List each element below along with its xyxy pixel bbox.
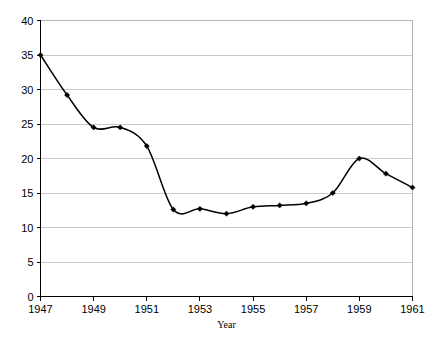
data-point-1953: [197, 206, 202, 211]
data-point-1950: [118, 125, 123, 130]
x-tick-label-1955: 1955: [241, 303, 265, 315]
y-tick-label-40: 40: [21, 15, 33, 27]
x-axis-title: Year: [217, 319, 236, 330]
y-tick-label-20: 20: [21, 153, 33, 165]
y-tick-label-30: 30: [21, 84, 33, 96]
data-point-1961: [410, 185, 415, 190]
x-tick-label-1951: 1951: [135, 303, 159, 315]
line-chart: 0510152025303540194719491951195319551957…: [0, 0, 433, 346]
series-line-path: [41, 55, 413, 214]
x-tick-label-1957: 1957: [294, 303, 318, 315]
chart-canvas: 0510152025303540194719491951195319551957…: [0, 0, 433, 346]
y-tick-label-5: 5: [27, 256, 33, 268]
y-tick-label-25: 25: [21, 118, 33, 130]
y-tick-label-15: 15: [21, 187, 33, 199]
data-point-1957: [304, 201, 309, 206]
x-tick-label-1961: 1961: [400, 303, 424, 315]
y-tick-label-35: 35: [21, 49, 33, 61]
x-tick-label-1947: 1947: [28, 303, 52, 315]
data-point-1954: [224, 211, 229, 216]
x-tick-label-1959: 1959: [347, 303, 371, 315]
data-point-1956: [277, 203, 282, 208]
y-tick-label-10: 10: [21, 222, 33, 234]
x-tick-label-1949: 1949: [81, 303, 105, 315]
x-tick-label-1953: 1953: [188, 303, 212, 315]
data-point-1955: [250, 204, 255, 209]
y-tick-label-0: 0: [27, 291, 33, 303]
